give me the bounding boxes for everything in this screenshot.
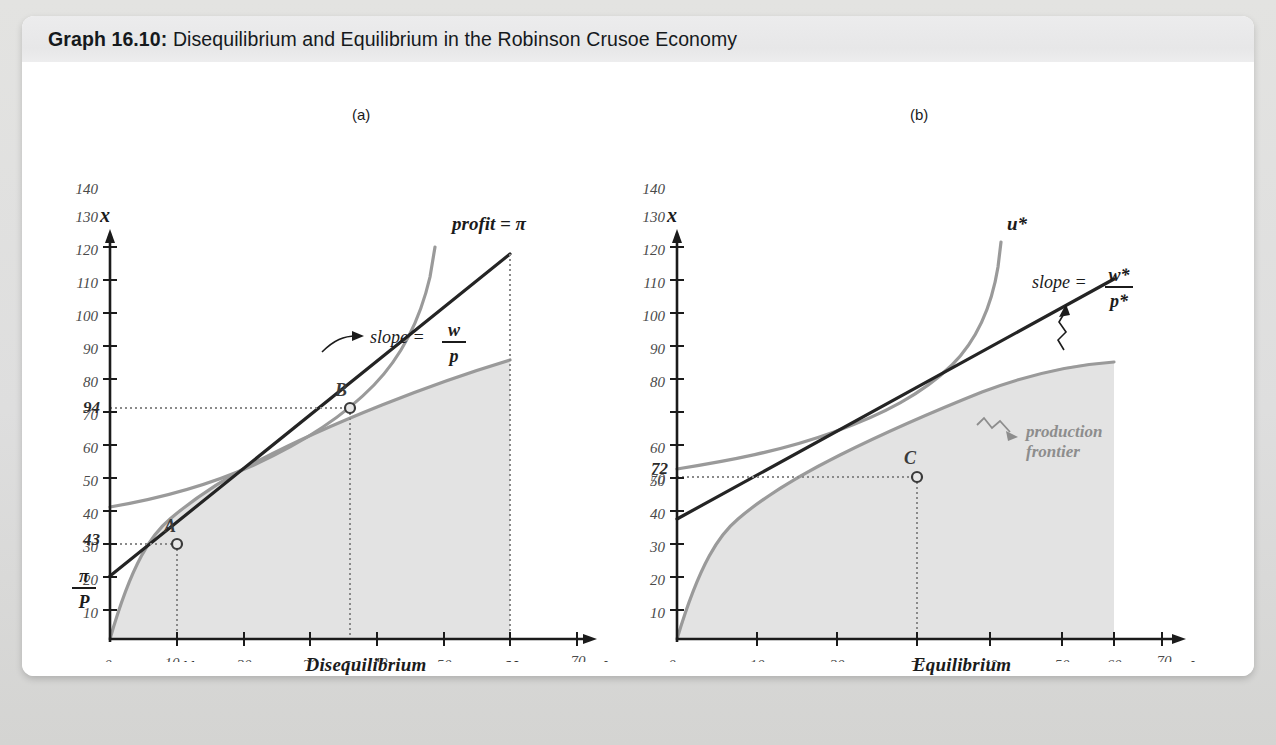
panel-a-ytick-50: 50	[83, 473, 99, 489]
panel-a-point-A-marker	[172, 539, 182, 549]
panel-a-ytick-140: 140	[76, 181, 99, 197]
panel-b-y-axis-name: x	[666, 204, 677, 226]
panel-a-y-axis-arrow	[105, 229, 115, 243]
panel-b-ytick-120: 120	[643, 242, 666, 258]
panel-b-ytick-30: 30	[649, 539, 666, 555]
panel-a-ytick-120: 120	[76, 242, 99, 258]
panel-b-ytick-20: 20	[650, 572, 666, 588]
panel-a-caption: Disequilibrium	[246, 654, 486, 676]
panel-a-ytick-110: 110	[77, 275, 99, 291]
panel-a-ytick-80: 80	[83, 374, 99, 390]
panel-a-ytick-highlight-94: 94	[83, 398, 100, 417]
panel-a-x-axis-arrow	[583, 634, 597, 644]
panel-b-xtick-10: 10	[750, 657, 766, 662]
panel-a-ytick-60: 60	[83, 440, 99, 456]
panel-b-frontier-label-line2: frontier	[1026, 442, 1080, 461]
panel-a-point-B-label: B	[334, 380, 347, 400]
panel-a-slope-denominator: p	[448, 346, 459, 366]
panel-a-xtick-highlight-11: 11	[180, 657, 196, 662]
panel-b-xtick-0: 0	[668, 657, 676, 662]
panel-b-slope-numerator: w*	[1108, 265, 1130, 285]
figure-label: Graph 16.10:	[48, 28, 167, 50]
panel-b-ytick-90: 90	[650, 341, 666, 357]
figure-title-bar: Graph 16.10: Disequilibrium and Equilibr…	[22, 16, 1254, 62]
panel-b-slope-denominator: p*	[1108, 291, 1129, 311]
panel-a-ytick-90: 90	[83, 341, 99, 357]
figure-title-text: Disequilibrium and Equilibrium in the Ro…	[173, 28, 737, 50]
panel-a-chart: 10 20 30 40 50 60 70 80 90 100 110 120 1…	[22, 82, 638, 662]
panel-b-point-C-label: C	[904, 448, 917, 468]
panel-a-point-A-label: A	[163, 516, 176, 536]
panel-b-ytick-140: 140	[643, 181, 666, 197]
panel-b-chart: 10 20 30 40 50 60 70 80 90 100 110 120 1…	[622, 82, 1238, 662]
panel-b-frontier-label-line1: production	[1024, 422, 1103, 441]
panel-b-point-C-marker	[912, 472, 922, 482]
panel-b-ytick-highlight-72: 72	[651, 459, 669, 478]
panel-b-caption: Equilibrium	[842, 654, 1082, 676]
panel-a-xtick-70: 70	[571, 653, 587, 662]
panel-a-slope-numerator: w	[448, 320, 461, 340]
panel-a-x-axis-name: ℓ	[600, 656, 609, 662]
panel-b-ytick-60: 60	[650, 440, 666, 456]
plot-area: (a) (b)	[22, 62, 1254, 676]
panel-b-ytick-130: 130	[643, 209, 666, 225]
panel-a-ytick-highlight-43: 43	[82, 530, 101, 549]
panel-b-ytick-80: 80	[650, 374, 666, 390]
panel-a-intercept-denominator: P	[78, 592, 91, 612]
panel-a-production-set-fill	[110, 360, 510, 639]
panel-b-y-axis-arrow	[672, 229, 682, 243]
panel-b-ytick-40: 40	[650, 506, 666, 522]
panel-b-x-axis-arrow	[1172, 634, 1186, 644]
panel-a-xtick-highlight-60: 60	[503, 657, 521, 662]
panel-b-slope-annotation: slope = w* p*	[1032, 265, 1133, 350]
figure-title: Graph 16.10: Disequilibrium and Equilibr…	[48, 28, 737, 51]
panel-b-xtick-70: 70	[1157, 653, 1173, 662]
panel-a-ytick-130: 130	[76, 209, 99, 225]
panel-b-ytick-10: 10	[650, 605, 666, 621]
panel-b-ytick-100: 100	[643, 308, 666, 324]
panel-a-xtick-0: 0	[104, 657, 112, 662]
panel-a-isoprofit-label: profit = π	[450, 213, 527, 234]
figure-card: Graph 16.10: Disequilibrium and Equilibr…	[22, 16, 1254, 676]
panel-b-xtick-60: 60	[1107, 657, 1123, 662]
panel-a-ytick-100: 100	[76, 308, 99, 324]
panel-b-ustar-label: u*	[1007, 213, 1028, 234]
panel-a-intercept-numerator: π	[79, 566, 90, 586]
panel-b-slope-label: slope =	[1032, 272, 1087, 292]
panel-a-xtick-10: 10	[165, 655, 181, 662]
panel-b-x-axis-name: ℓ	[1187, 656, 1196, 662]
panel-a-point-B-marker	[345, 403, 355, 413]
panel-a-slope-label: slope =	[370, 327, 425, 347]
panel-a-ytick-40: 40	[83, 506, 99, 522]
panel-a-y-axis-name: x	[99, 204, 110, 226]
panel-b-ytick-110: 110	[644, 275, 666, 291]
